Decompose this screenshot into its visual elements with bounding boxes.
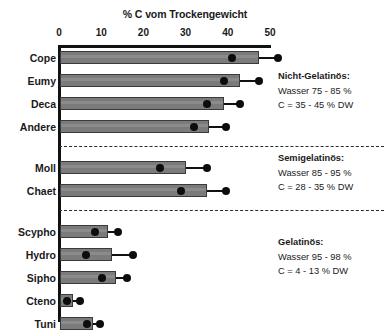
bar-eumy — [60, 74, 240, 87]
y-axis-label-hydro: Hydro — [26, 249, 56, 261]
annotation-water-nicht-gelatinoes: Wasser 75 - 85 % — [278, 84, 353, 99]
y-axis-label-moll: Moll — [35, 162, 56, 174]
plot-area: CopeEumyDecaAndereMollChaetScyphoHydroSi… — [0, 45, 388, 334]
max-marker-sipho — [123, 274, 131, 282]
y-axis-label-scypho: Scypho — [18, 226, 56, 238]
mean-marker-eumy — [220, 77, 228, 85]
bar-sipho — [60, 271, 116, 284]
max-marker-cteno — [76, 297, 84, 305]
annotation-nicht-gelatinoes: Nicht-Gelatinös:Wasser 75 - 85 %C = 35 -… — [278, 69, 353, 113]
y-axis-label-deca: Deca — [31, 98, 56, 110]
annotation-gelatinoes: Gelatinös:Wasser 95 - 98 %C = 4 - 13 % D… — [278, 235, 352, 279]
annotation-title-gelatinoes: Gelatinös: — [278, 235, 352, 250]
mean-marker-tuni — [83, 320, 91, 328]
y-axis-label-chaet: Chaet — [27, 185, 56, 197]
mean-marker-moll — [156, 164, 164, 172]
max-marker-hydro — [129, 251, 137, 259]
bar-andere — [60, 120, 209, 133]
mean-marker-andere — [190, 123, 198, 131]
max-marker-tuni — [96, 320, 104, 328]
annotation-water-semigelatinoes: Wasser 85 - 95 % — [278, 166, 353, 181]
y-axis-label-eumy: Eumy — [27, 75, 56, 87]
x-tick-label-30: 30 — [180, 27, 191, 38]
bar-deca — [60, 97, 224, 110]
max-marker-andere — [222, 123, 230, 131]
annotation-title-nicht-gelatinoes: Nicht-Gelatinös: — [278, 69, 353, 84]
max-marker-deca — [236, 100, 244, 108]
y-axis-label-cope: Cope — [30, 52, 56, 64]
y-axis-label-cteno: Cteno — [26, 295, 56, 307]
bar-row-cope: Cope — [0, 49, 388, 67]
max-marker-scypho — [114, 228, 122, 236]
mean-marker-chaet — [177, 187, 185, 195]
mean-marker-scypho — [91, 228, 99, 236]
max-marker-cope — [274, 54, 282, 62]
mean-marker-cope — [228, 54, 236, 62]
chart-figure: % C vom Trockengewicht 01020304050 CopeE… — [0, 0, 388, 334]
bar-scypho — [60, 225, 108, 238]
x-axis-tick-labels: 01020304050 — [0, 27, 388, 41]
bar-row-cteno: Cteno — [0, 292, 388, 310]
annotation-semigelatinoes: Semigelatinös:Wasser 85 - 95 %C = 28 - 3… — [278, 151, 353, 195]
annotation-carbon-nicht-gelatinoes: C = 35 - 45 % DW — [278, 98, 353, 113]
y-axis-label-tuni: Tuni — [35, 318, 56, 330]
max-marker-eumy — [255, 77, 263, 85]
y-axis-label-sipho: Sipho — [27, 272, 56, 284]
group-separator-2 — [59, 210, 384, 211]
chart-title: % C vom Trockengewicht — [60, 8, 310, 20]
bar-row-andere: Andere — [0, 118, 388, 136]
annotation-title-semigelatinoes: Semigelatinös: — [278, 151, 353, 166]
x-tick-label-20: 20 — [138, 27, 149, 38]
group-separator-1 — [59, 146, 384, 147]
max-marker-moll — [203, 164, 211, 172]
x-tick-label-0: 0 — [56, 27, 62, 38]
bar-moll — [60, 161, 186, 174]
max-marker-chaet — [222, 187, 230, 195]
mean-marker-cteno — [63, 297, 71, 305]
x-tick-label-50: 50 — [264, 27, 275, 38]
y-axis-label-andere: Andere — [20, 121, 56, 133]
annotation-water-gelatinoes: Wasser 95 - 98 % — [278, 250, 352, 265]
mean-marker-sipho — [98, 274, 106, 282]
mean-marker-hydro — [82, 251, 90, 259]
annotation-carbon-gelatinoes: C = 4 - 13 % DW — [278, 264, 352, 279]
x-tick-label-10: 10 — [96, 27, 107, 38]
annotation-carbon-semigelatinoes: C = 28 - 35 % DW — [278, 180, 353, 195]
x-tick-label-40: 40 — [222, 27, 233, 38]
mean-marker-deca — [203, 100, 211, 108]
bar-row-tuni: Tuni — [0, 315, 388, 333]
